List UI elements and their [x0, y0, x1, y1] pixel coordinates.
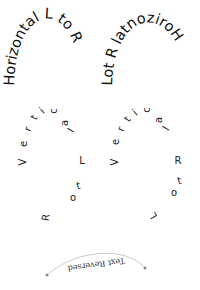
vertical-letter: o	[171, 187, 177, 198]
vertical-letter: a	[153, 117, 164, 123]
canvas: Horizontal L to R Lot R latnoziroH V e r…	[0, 0, 200, 290]
vertical-letter: t	[177, 175, 183, 187]
vertical-letter: r	[115, 124, 127, 132]
vertical-letter: i	[130, 107, 139, 117]
arc-textpath-right: Lot R latnoziroH	[99, 9, 187, 86]
vertical-letter: t	[122, 114, 133, 124]
vertical-letter: L	[147, 210, 160, 221]
vertical-text-right: V e r t i c a l R t o L	[109, 107, 182, 221]
vertical-letter: e	[110, 139, 121, 145]
svg-text:Lot R latnoziroH: Lot R latnoziroH	[99, 9, 187, 86]
vertical-letter: c	[141, 107, 152, 113]
vertical-letter: V	[109, 158, 120, 165]
arc-textpath-left: Horizontal L to R	[1, 5, 86, 86]
reversed-curve-group: Text Reversed	[46, 253, 147, 276]
svg-text:Horizontal L to R: Horizontal L to R	[1, 5, 86, 86]
vertical-letter: R	[40, 213, 52, 222]
arc-text-horizontal-l-to-r: Horizontal L to R	[1, 5, 86, 86]
vertical-letter: L	[79, 155, 85, 166]
vertical-letter: r	[22, 124, 34, 132]
vertical-letter: e	[18, 141, 29, 147]
vertical-letter: l	[66, 126, 77, 134]
vertical-letter: R	[175, 155, 182, 166]
curve-end-handle[interactable]	[144, 267, 147, 270]
vertical-letter: t	[28, 113, 40, 122]
arc-text-reversed: Lot R latnoziroH	[99, 9, 187, 86]
vertical-letter: t	[76, 180, 82, 192]
vertical-letter: c	[48, 108, 59, 114]
vertical-letter: a	[59, 120, 70, 126]
vertical-letter: o	[70, 192, 76, 203]
vertical-letter: l	[161, 124, 172, 132]
vertical-letter: V	[17, 158, 28, 165]
vertical-letter: i	[37, 105, 46, 115]
vertical-text-left: V e r t i c a l L t o R	[17, 105, 85, 222]
curve-start-handle[interactable]	[46, 274, 49, 277]
